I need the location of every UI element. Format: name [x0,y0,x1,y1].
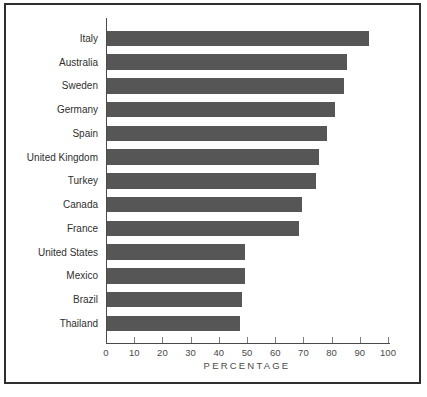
category-label: France [0,223,98,234]
bar [107,102,335,118]
bar [107,173,316,189]
x-tick-label: 30 [176,347,206,358]
bar [107,292,242,308]
bar-rows: ItalyAustraliaSwedenGermanySpainUnited K… [0,27,427,336]
bar-row: Australia [0,50,427,74]
bar-row: Turkey [0,169,427,193]
bar-row: Canada [0,193,427,217]
bar [107,78,344,94]
category-label: Turkey [0,175,98,186]
category-label: United States [0,247,98,258]
bar [107,54,347,70]
bar-row: United Kingdom [0,145,427,169]
x-tick [247,337,248,343]
x-tick [134,337,135,343]
x-tick-label: 70 [288,347,318,358]
bar [107,149,319,165]
bar [107,126,327,142]
bar-row: Thailand [0,312,427,336]
category-label: Sweden [0,80,98,91]
x-tick [219,337,220,343]
x-tick-label: 50 [232,347,262,358]
bar-row: Mexico [0,264,427,288]
x-tick-label: 100 [373,347,403,358]
bar-row: Sweden [0,74,427,98]
bar-row: Spain [0,122,427,146]
bar-row: Brazil [0,288,427,312]
x-axis-line [106,343,390,345]
bar [107,197,302,213]
x-tick [191,337,192,343]
bar-row: France [0,217,427,241]
category-label: Thailand [0,318,98,329]
bar-row: Italy [0,27,427,51]
category-label: Mexico [0,270,98,281]
x-tick-label: 10 [119,347,149,358]
x-tick [332,337,333,343]
bar [107,268,245,284]
bar [107,244,245,260]
x-tick [275,337,276,343]
x-tick-label: 40 [204,347,234,358]
x-tick [162,337,163,343]
x-tick [303,337,304,343]
x-tick [388,337,389,343]
category-label: Italy [0,33,98,44]
category-label: Brazil [0,294,98,305]
category-label: United Kingdom [0,152,98,163]
bar-row: United States [0,240,427,264]
x-tick-label: 60 [260,347,290,358]
x-tick-label: 80 [317,347,347,358]
x-tick-label: 90 [345,347,375,358]
bar [107,316,240,332]
category-label: Australia [0,57,98,68]
y-axis-line [106,18,108,344]
category-label: Germany [0,104,98,115]
x-axis-title: PERCENTAGE [147,360,347,371]
bar [107,221,299,237]
category-label: Canada [0,199,98,210]
bar [107,31,369,47]
x-tick-label: 20 [147,347,177,358]
bar-row: Germany [0,98,427,122]
x-tick [360,337,361,343]
x-tick-label: 0 [91,347,121,358]
category-label: Spain [0,128,98,139]
bar-chart-figure: ItalyAustraliaSwedenGermanySpainUnited K… [0,0,427,397]
